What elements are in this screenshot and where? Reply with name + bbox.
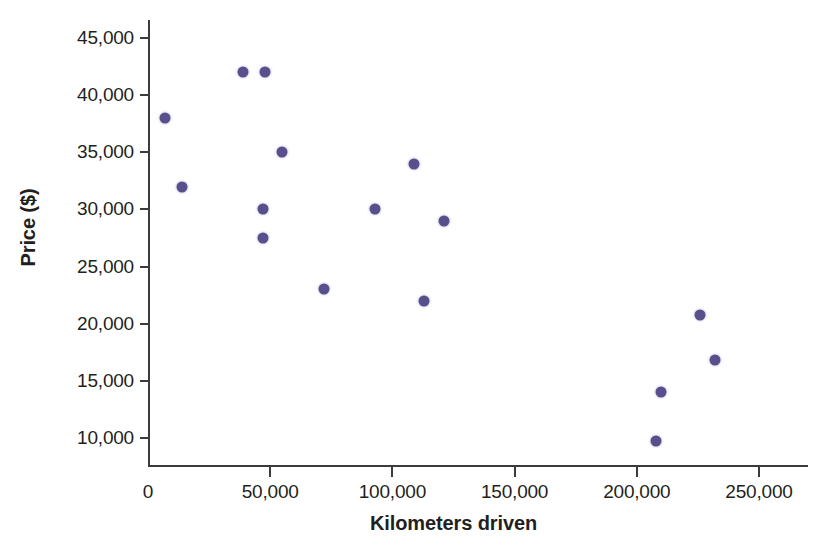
data-point [257,204,268,215]
y-axis-tick [140,151,149,153]
y-axis-tick-label: 10,000 [42,428,134,447]
y-axis-tick [140,208,149,210]
data-point [370,204,381,215]
data-point [656,387,667,398]
data-point [409,158,420,169]
y-axis-tick-label: 15,000 [42,371,134,390]
data-point [438,215,449,226]
x-axis-title: Kilometers driven [148,512,759,535]
x-axis-tick-label: 150,000 [481,482,548,502]
data-point [419,295,430,306]
y-axis-tick [140,437,149,439]
data-point [160,113,171,124]
x-axis-tick-label: 0 [143,482,153,502]
data-point [318,284,329,295]
scatter-plot-figure: 10,00015,00020,00025,00030,00035,00040,0… [0,0,828,556]
data-point [651,436,662,447]
y-axis-tick [140,37,149,39]
y-axis-tick [140,323,149,325]
y-axis-tick-label: 35,000 [42,142,134,161]
x-axis-tick-label: 50,000 [242,482,299,502]
data-point [277,147,288,158]
y-axis-tick-label: 45,000 [42,28,134,47]
x-axis-tick [758,467,760,477]
x-axis-tick-label: 100,000 [359,482,426,502]
x-axis-tick-label: 200,000 [603,482,670,502]
y-axis-title: Price ($) [17,138,40,318]
data-point [257,233,268,244]
data-point [695,309,706,320]
x-axis-tick [514,467,516,477]
data-point [238,67,249,78]
y-axis-tick-label: 40,000 [42,85,134,104]
y-axis-tick [140,94,149,96]
y-axis-line [148,20,150,467]
y-axis-tick [140,380,149,382]
y-axis-tick-label: 20,000 [42,314,134,333]
y-axis-tick-label: 30,000 [42,199,134,218]
x-axis-tick [391,467,393,477]
x-axis-line [148,465,808,467]
x-axis-tick [636,467,638,477]
y-axis-tick [140,266,149,268]
data-point [177,181,188,192]
data-point [260,67,271,78]
x-axis-tick [269,467,271,477]
x-axis-tick-label: 250,000 [725,482,792,502]
y-axis-tick-label: 25,000 [42,257,134,276]
data-point [710,355,721,366]
